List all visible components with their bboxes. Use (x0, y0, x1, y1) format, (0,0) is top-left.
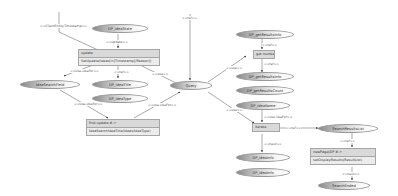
update-box-row: SetUpdate(Ideas[in]Timestamp[/Reason]) (79, 58, 159, 65)
dp-getresultsinfo2-node[interactable]: DP_getResultsInfo (236, 72, 294, 81)
dp-ideaname-node[interactable]: DP_ideaName (236, 101, 290, 110)
edge-label: <<next>> (264, 142, 282, 146)
edge-label: <<ref>> (340, 139, 355, 143)
ref-stub-label: <<ref>> (182, 16, 197, 20)
edge-label: <<update>> (106, 40, 128, 44)
findupdate-box-header: find update #-> (87, 120, 159, 128)
edge-label: <<use>> (152, 72, 168, 76)
dp-getresultsinfo-node[interactable]: DP_getResultsInfo (236, 30, 294, 39)
update-box[interactable]: update SetUpdate(Ideas[in]Timestamp[/Rea… (78, 49, 160, 66)
edge-label: <<ref>> (262, 43, 277, 47)
query-node[interactable]: Query (170, 81, 212, 90)
edge-label: <<use>> (226, 66, 242, 70)
edge-label: <<use-UseFor>> (148, 103, 176, 107)
update-box-header: update (79, 50, 159, 58)
iterate-label: iterate (253, 124, 279, 131)
findupdate-box[interactable]: find update #-> IdeaSearchIdeaTitle(Idea… (86, 119, 160, 136)
findupdate-box-row: IdeaSearchIdeaTitle(Ideas/IdeaType) (87, 128, 159, 135)
dp-ideainfo1-node[interactable]: DP_ideaInfo (236, 153, 290, 162)
newpage-box[interactable]: newPage(DP #-> setDisplayResults(ResultL… (310, 148, 376, 165)
edge-label: <<Use-UseFor>> (70, 69, 99, 73)
iterate-box[interactable]: iterate (252, 123, 280, 132)
searchresults-node[interactable]: SearchResultsList (318, 124, 378, 133)
edge-label: <<next>> (342, 172, 360, 176)
newpage-box-header: newPage(DP #-> (311, 149, 375, 157)
edges-layer (0, 0, 398, 196)
dp-ideastate-node[interactable]: DP_ideaState (92, 24, 148, 33)
diagram-canvas: <<ClientEntityTimestamp>> <<ref>> DP_ide… (0, 0, 398, 196)
ideasearchfield-node[interactable]: IdeaSearchField (20, 80, 80, 89)
client-entity-timestamp-label: <<ClientEntityTimestamp>> (40, 24, 87, 28)
get-numbers-label: get numbers (254, 51, 274, 58)
edge-label: <<use>> (226, 108, 242, 112)
edge-label: <<Use-UseFor>> (74, 102, 103, 106)
edge-label: <<ref>> (114, 70, 129, 74)
dp-ideainfo2-node[interactable]: DP_ideaInfo (236, 168, 290, 177)
get-numbers-box[interactable]: get numbers (253, 50, 275, 59)
edge-label: <<ref>> (286, 126, 301, 130)
edge-label: <<ref>> (264, 62, 279, 66)
search-ended-node[interactable]: SearchEnded (318, 181, 370, 190)
dp-getresultscount-node[interactable]: DP_getResultsCount (236, 86, 294, 95)
dp-ideatitle-node[interactable]: DP_ideaTitle (92, 80, 148, 89)
newpage-box-row: setDisplayResults(ResultList) (311, 157, 375, 164)
edge-label: <<use-UseFor>> (264, 115, 292, 119)
